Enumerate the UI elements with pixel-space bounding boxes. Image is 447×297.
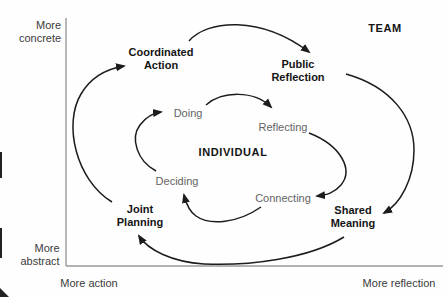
arrow-connecting-to-deciding <box>184 195 261 222</box>
node-joint-planning-line2: Planning <box>117 216 163 229</box>
y-axis-label-bottom-line1: More <box>20 242 59 255</box>
team-cycle-title: TEAM <box>368 22 402 35</box>
arrow-doing-to-reflecting <box>206 94 271 107</box>
scan-artifact-edge-2 <box>0 228 2 258</box>
arrow-deciding-to-doing <box>135 112 161 171</box>
node-coordinated-action: Coordinated Action <box>129 46 194 72</box>
y-axis-label-top-line1: More <box>19 19 61 32</box>
x-axis-label-right: More reflection <box>363 277 436 290</box>
node-public-reflection: Public Reflection <box>271 58 324 84</box>
node-deciding: Deciding <box>156 175 199 188</box>
node-coordinated-action-line2: Action <box>129 59 194 72</box>
individual-cycle-title: INDIVIDUAL <box>199 146 268 159</box>
node-connecting: Connecting <box>255 192 311 205</box>
node-reflecting: Reflecting <box>259 121 308 134</box>
diagram-canvas: More concrete More abstract More action … <box>0 0 447 297</box>
node-joint-planning: Joint Planning <box>117 203 163 229</box>
node-shared-meaning: Shared Meaning <box>331 204 376 230</box>
y-axis-label-bottom: More abstract <box>20 242 59 268</box>
node-public-reflection-line2: Reflection <box>271 71 324 84</box>
node-public-reflection-line1: Public <box>271 58 324 71</box>
arrow-public-reflection-to-shared-meaning <box>346 74 414 213</box>
arrow-joint-planning-to-coordinated-action <box>73 66 124 202</box>
node-joint-planning-line1: Joint <box>117 203 163 216</box>
y-axis-label-bottom-line2: abstract <box>20 255 59 268</box>
node-coordinated-action-line1: Coordinated <box>129 46 194 59</box>
arrow-shared-meaning-to-joint-planning <box>139 236 344 264</box>
node-shared-meaning-line2: Meaning <box>331 217 376 230</box>
y-axis-label-top: More concrete <box>19 19 61 45</box>
x-axis-label-left: More action <box>60 277 117 290</box>
node-doing: Doing <box>174 107 203 120</box>
node-shared-meaning-line1: Shared <box>331 204 376 217</box>
scan-artifact-edge-1 <box>0 152 2 178</box>
y-axis-label-top-line2: concrete <box>19 32 61 45</box>
arrow-coordinated-action-to-public-reflection <box>189 25 309 52</box>
arrow-reflecting-to-connecting <box>309 133 346 196</box>
